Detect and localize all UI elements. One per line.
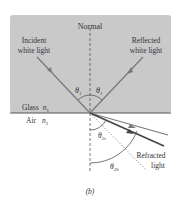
incident-label-line1: Incident	[22, 36, 47, 45]
refracted-label-line1: Refracted	[136, 151, 165, 160]
refraction-diagram: Normal Incident white light Reflected wh…	[0, 0, 181, 203]
refracted-blue-ray	[90, 113, 164, 146]
figure-caption: (b)	[86, 187, 95, 196]
theta2b-label: θ2b	[110, 162, 119, 172]
air-label: Airn2	[26, 116, 49, 126]
reflected-label-line2: white light	[130, 46, 163, 55]
refracted-label-line2: light	[151, 161, 166, 170]
incident-label-line2: white light	[18, 46, 51, 55]
theta2r-label: θ2r	[98, 131, 106, 141]
theta2r-arc	[90, 120, 106, 130]
glass-label: Glassn1	[22, 103, 49, 113]
normal-label: Normal	[78, 22, 103, 31]
reflected-label-line1: Reflected	[132, 36, 161, 45]
dotted-extension	[90, 113, 146, 170]
